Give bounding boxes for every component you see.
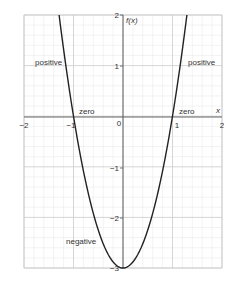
y-tick-label-1: 1	[115, 62, 120, 71]
annotation-positive-left: positive	[35, 58, 63, 67]
function-graph: −2 −1 0 1 2 2 1 −1 −2 −3 f(x) x positive…	[0, 0, 235, 285]
x-tick-label-minus-1: −1	[66, 121, 76, 130]
annotation-zero-right: zero	[179, 107, 195, 116]
x-tick-label-0: 0	[117, 119, 122, 128]
y-tick-label-minus-3: −3	[110, 264, 120, 273]
y-tick-label-2: 2	[115, 11, 120, 20]
annotation-positive-right: positive	[188, 58, 216, 67]
x-tick-label-2: 2	[220, 121, 225, 130]
x-axis-label: x	[215, 106, 221, 115]
x-tick-label-1: 1	[175, 121, 180, 130]
y-tick-label-minus-1: −1	[110, 164, 120, 173]
x-tick-label-minus-2: −2	[19, 121, 29, 130]
y-axis-label: f(x)	[126, 16, 138, 25]
annotation-zero-left: zero	[79, 107, 95, 116]
annotation-negative: negative	[66, 237, 97, 246]
y-tick-label-minus-2: −2	[110, 214, 120, 223]
